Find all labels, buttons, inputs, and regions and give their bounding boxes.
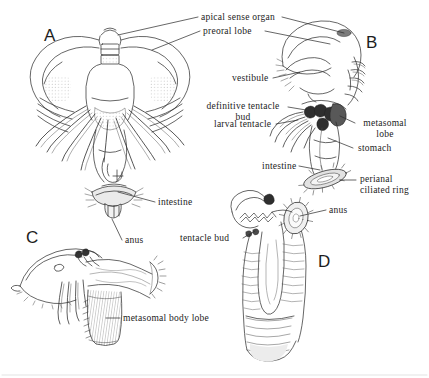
- label-anus-a: anus: [125, 235, 143, 246]
- label-metasomal-body-lobe: metasomal body lobe: [123, 313, 209, 324]
- label-apical-sense-organ: apical sense organ: [201, 12, 275, 23]
- label-intestine-a: intestine: [158, 197, 192, 208]
- panel-c-drawing: [11, 249, 166, 346]
- figure-container: A B C D apical sense organ preoral lobe …: [0, 0, 429, 378]
- label-tentacle-bud: tentacle bud: [180, 233, 229, 244]
- label-perianal-ciliated-ring-line2: ciliated ring: [360, 185, 409, 196]
- label-intestine-b: intestine: [262, 161, 296, 172]
- panel-letter-b: B: [366, 33, 377, 53]
- label-perianal-ciliated-ring-line1: perianal: [360, 174, 409, 185]
- label-metasomal-lobe-line2: lobe: [357, 129, 413, 140]
- label-larval-tentacle: larval tentacle: [214, 119, 271, 130]
- label-stomach: stomach: [358, 143, 391, 154]
- panel-letter-a: A: [44, 26, 55, 46]
- label-preoral-lobe: preoral lobe: [203, 26, 252, 37]
- label-metasomal-lobe-line1: metasomal: [357, 118, 413, 129]
- label-perianal-ciliated-ring: perianal ciliated ring: [360, 174, 409, 195]
- label-anus-d: anus: [329, 205, 347, 216]
- panel-letter-c: C: [26, 228, 38, 248]
- panel-d-drawing: [231, 190, 317, 361]
- label-metasomal-lobe: metasomal lobe: [357, 118, 413, 139]
- panel-a-drawing: [30, 28, 190, 218]
- label-vestibule: vestibule: [232, 73, 269, 84]
- label-definitive-tentacle-bud-line1: definitive tentacle: [200, 101, 286, 112]
- panel-letter-d: D: [318, 252, 330, 272]
